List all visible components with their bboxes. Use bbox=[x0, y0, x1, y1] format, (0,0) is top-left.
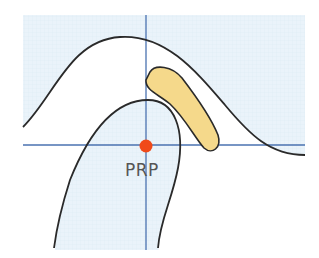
prp-diagram bbox=[0, 0, 319, 258]
prp-point bbox=[140, 140, 153, 153]
prp-label: PRP bbox=[125, 160, 159, 180]
grid-background bbox=[23, 15, 305, 258]
